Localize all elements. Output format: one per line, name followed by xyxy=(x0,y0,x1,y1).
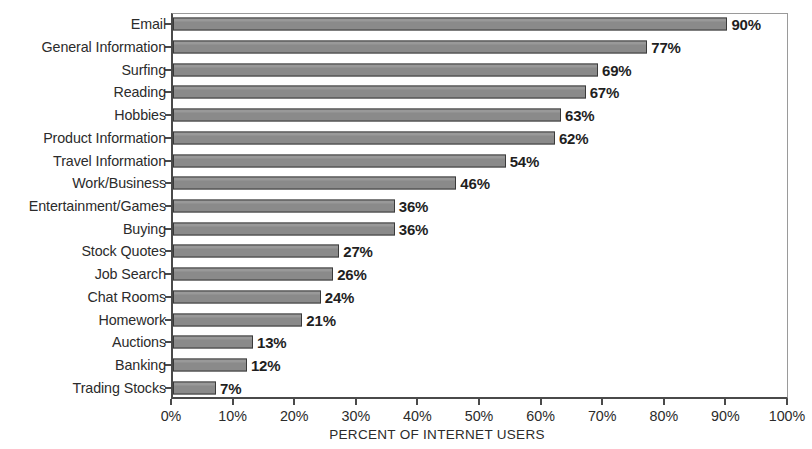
x-axis-tick-label: 10% xyxy=(218,408,247,424)
category-label: Chat Rooms xyxy=(88,289,166,305)
bar-value-label: 67% xyxy=(590,84,619,101)
bar xyxy=(173,268,333,281)
bar xyxy=(173,290,321,303)
bar xyxy=(173,245,339,258)
bar-row: Surfing69% xyxy=(0,58,812,81)
bar-row: Stock Quotes27% xyxy=(0,240,812,263)
category-label: Travel Information xyxy=(53,153,166,169)
bar-row: Chat Rooms24% xyxy=(0,285,812,308)
bar xyxy=(173,313,302,326)
bar-value-label: 63% xyxy=(565,107,594,124)
bar xyxy=(173,63,598,76)
category-label: Homework xyxy=(98,312,166,328)
bar xyxy=(173,199,395,212)
bar xyxy=(173,177,456,190)
bar xyxy=(173,109,561,122)
bar-value-label: 36% xyxy=(399,220,428,237)
category-label: General Information xyxy=(42,39,166,55)
x-axis-tick-label: 50% xyxy=(465,408,494,424)
bar-row: Auctions13% xyxy=(0,331,812,354)
bar-row: Travel Information54% xyxy=(0,149,812,172)
x-axis-tick-label: 30% xyxy=(341,408,370,424)
bar-value-label: 77% xyxy=(651,39,680,56)
x-axis-tick-label: 60% xyxy=(526,408,555,424)
bar xyxy=(173,154,506,167)
x-axis-tick xyxy=(293,399,295,405)
category-label: Trading Stocks xyxy=(73,380,166,396)
bar-value-label: 26% xyxy=(337,266,366,283)
bar-row: Product Information62% xyxy=(0,127,812,150)
bar-row: Trading Stocks7% xyxy=(0,376,812,399)
category-label: Entertainment/Games xyxy=(29,198,166,214)
x-axis-tick-label: 70% xyxy=(588,408,617,424)
category-label: Buying xyxy=(123,221,166,237)
x-axis-tick xyxy=(416,399,418,405)
bar-chart-screenshot: Email90%General Information77%Surfing69%… xyxy=(0,0,812,449)
bar-value-label: 46% xyxy=(460,175,489,192)
bar-row: Buying36% xyxy=(0,217,812,240)
bar xyxy=(173,222,395,235)
bar-value-label: 62% xyxy=(559,129,588,146)
bar-row: Reading67% xyxy=(0,81,812,104)
bar-row: Hobbies63% xyxy=(0,104,812,127)
x-axis-tick-label: 90% xyxy=(711,408,740,424)
bar-row: General Information77% xyxy=(0,36,812,59)
category-label: Product Information xyxy=(43,130,166,146)
x-axis-tick-label: 40% xyxy=(403,408,432,424)
category-label: Job Search xyxy=(95,266,166,282)
bar-value-label: 13% xyxy=(257,334,286,351)
bar-row: Job Search26% xyxy=(0,263,812,286)
bar-row: Email90% xyxy=(0,13,812,36)
bar-value-label: 36% xyxy=(399,197,428,214)
bar xyxy=(173,381,216,394)
bar-value-label: 90% xyxy=(731,16,760,33)
x-axis-tick xyxy=(540,399,542,405)
category-label: Surfing xyxy=(121,62,166,78)
category-label: Work/Business xyxy=(72,175,166,191)
bar-value-label: 24% xyxy=(325,288,354,305)
bar-row: Entertainment/Games36% xyxy=(0,195,812,218)
bar xyxy=(173,86,586,99)
x-axis-tick-label: 100% xyxy=(769,408,806,424)
x-axis-tick xyxy=(170,399,172,405)
x-axis-tick-label: 0% xyxy=(161,408,182,424)
bar xyxy=(173,41,647,54)
x-axis-tick xyxy=(601,399,603,405)
x-axis-tick-label: 20% xyxy=(280,408,309,424)
category-label: Hobbies xyxy=(114,107,166,123)
bar-value-label: 12% xyxy=(251,356,280,373)
x-axis-tick xyxy=(478,399,480,405)
x-axis-title: PERCENT OF INTERNET USERS xyxy=(0,427,812,442)
category-label: Stock Quotes xyxy=(81,243,166,259)
bar-value-label: 21% xyxy=(306,311,335,328)
x-axis-tick xyxy=(663,399,665,405)
bar-row: Homework21% xyxy=(0,308,812,331)
category-label: Banking xyxy=(115,357,166,373)
bar-value-label: 27% xyxy=(343,243,372,260)
bar-rows-container: Email90%General Information77%Surfing69%… xyxy=(0,13,812,399)
x-axis-tick xyxy=(786,399,788,405)
category-label: Email xyxy=(131,16,166,32)
bar xyxy=(173,131,555,144)
x-axis-tick xyxy=(355,399,357,405)
bar xyxy=(173,18,727,31)
category-label: Reading xyxy=(113,84,166,100)
bar xyxy=(173,336,253,349)
x-axis-tick xyxy=(232,399,234,405)
bar-row: Work/Business46% xyxy=(0,172,812,195)
category-label: Auctions xyxy=(112,334,166,350)
bar-value-label: 69% xyxy=(602,61,631,78)
bar xyxy=(173,358,247,371)
bar-row: Banking12% xyxy=(0,354,812,377)
x-axis-tick xyxy=(724,399,726,405)
bar-value-label: 7% xyxy=(220,379,241,396)
bar-value-label: 54% xyxy=(510,152,539,169)
x-axis-tick-label: 80% xyxy=(649,408,678,424)
